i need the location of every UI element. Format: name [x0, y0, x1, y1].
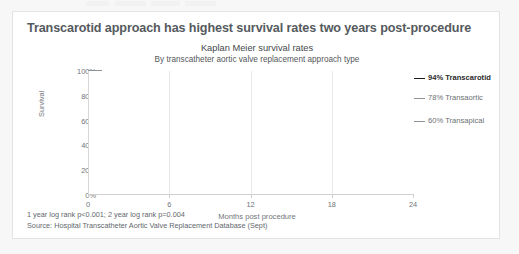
x-tick-label-12: 12	[239, 200, 263, 209]
end-label-transapical: 60% Transapical	[428, 116, 484, 125]
x-tick-label-18: 18	[320, 200, 344, 209]
x-tick-label-24: 24	[401, 200, 425, 209]
x-tick-0	[88, 194, 89, 198]
gridline-x-6	[169, 71, 170, 195]
x-tick-24	[413, 194, 414, 198]
end-label-transcarotid: 94% Transcarotid	[428, 73, 491, 82]
footnotes: 1 year log rank p<0.001; 2 year log rank…	[27, 210, 267, 231]
y-axis-title: Survival	[37, 91, 46, 117]
x-tick-12	[251, 194, 252, 198]
chart-title: Kaplan Meier survival rates	[13, 43, 501, 53]
footnote-statistics: 1 year log rank p<0.001; 2 year log rank…	[27, 210, 267, 221]
end-label-transaortic: 78% Transaortic	[428, 93, 483, 102]
end-mark-transaortic	[414, 98, 425, 99]
footnote-source: Source: Hospital Transcatheter Aortic Va…	[27, 221, 267, 232]
screenshot-stage: Transcarotid approach has highest surviv…	[0, 0, 519, 254]
plot-area	[88, 71, 413, 195]
end-mark-transcarotid	[414, 78, 425, 79]
gridline-x-12	[251, 71, 252, 195]
cut-off-text-above-card	[86, 1, 216, 6]
x-tick-label-6: 6	[157, 200, 181, 209]
x-tick-label-0: 0	[76, 200, 100, 209]
x-tick-6	[169, 194, 170, 198]
end-mark-transapical	[414, 121, 425, 122]
card-headline: Transcarotid approach has highest surviv…	[27, 21, 487, 35]
x-tick-18	[332, 194, 333, 198]
chart-subtitle: By transcatheter aortic valve replacemen…	[13, 55, 501, 64]
gridline-x-18	[332, 71, 333, 195]
y-axis-line	[88, 71, 89, 195]
chart-card: Transcarotid approach has highest surviv…	[12, 11, 500, 239]
